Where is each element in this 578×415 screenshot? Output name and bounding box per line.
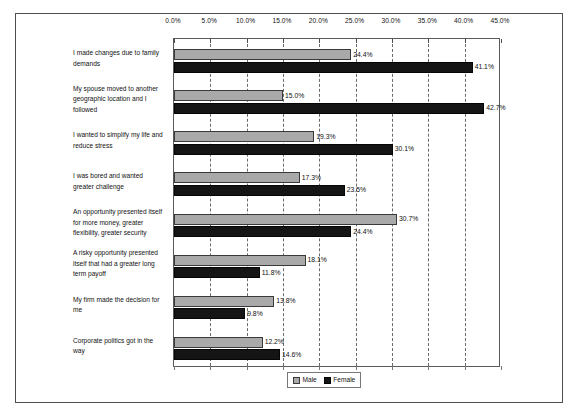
category-label-line: I made changes due to family xyxy=(73,48,173,59)
bar-female xyxy=(174,349,280,360)
legend-label: Male xyxy=(303,376,317,384)
axis-tick-mark xyxy=(283,39,284,43)
bar-value-label: 15.0% xyxy=(285,92,304,100)
category-label: A risky opportunity presenteditself that… xyxy=(73,244,173,285)
bar-value-label: 24.4% xyxy=(353,51,372,59)
axis-tick-mark xyxy=(465,366,466,370)
bar-male xyxy=(174,296,274,307)
bar-value-label: 13.8% xyxy=(276,297,295,305)
bar-value-label: 24.4% xyxy=(353,228,372,236)
category-label: I made changes due to familydemands xyxy=(73,38,173,79)
axis-tick-mark xyxy=(247,39,248,43)
category-label-line: for more money, greater xyxy=(73,218,173,229)
gridline xyxy=(283,39,284,366)
category-label: My spouse moved to anothergeographic loc… xyxy=(73,79,173,120)
category-label-line: reduce stress xyxy=(73,141,173,152)
bar-value-label: 30.1% xyxy=(395,145,414,153)
bar-female xyxy=(174,185,345,196)
category-label-line: My firm made the decision for xyxy=(73,295,173,306)
plot-area: 24.4%41.1%15.0%42.7%19.3%30.1%17.3%23.5%… xyxy=(173,38,500,367)
legend-entry-female[interactable]: Female xyxy=(324,376,356,384)
category-label: I wanted to simplify my life andreduce s… xyxy=(73,120,173,161)
bar-male xyxy=(174,90,283,101)
gridline xyxy=(356,39,357,366)
bar-female xyxy=(174,62,473,73)
category-label-line: demands xyxy=(73,59,173,70)
category-label-line: term payoff xyxy=(73,269,173,280)
category-label-line: followed xyxy=(73,105,173,116)
bar-female xyxy=(174,267,260,278)
gridline xyxy=(428,39,429,366)
bar-female xyxy=(174,308,245,319)
category-label-line: flexibility, greater security xyxy=(73,228,173,239)
category-label: My firm made the decision forme xyxy=(73,285,173,326)
chart-legend: MaleFemale xyxy=(287,372,361,388)
bar-value-label: 9.8% xyxy=(247,310,263,318)
axis-tick-mark xyxy=(428,366,429,370)
legend-swatch-icon xyxy=(324,377,331,384)
axis-tick-mark xyxy=(501,39,502,43)
category-label-line: me xyxy=(73,305,173,316)
gridline xyxy=(465,39,466,366)
bar-female xyxy=(174,226,351,237)
axis-tick-mark xyxy=(174,39,175,43)
category-label-line: My spouse moved to another xyxy=(73,84,173,95)
bar-value-label: 14.6% xyxy=(282,351,301,359)
bar-male xyxy=(174,214,397,225)
axis-tick-mark xyxy=(392,39,393,43)
axis-tick-mark xyxy=(319,39,320,43)
chart-frame: 0.0%5.0%10.0%15.0%20.0%25.0%30.0%35.0%40… xyxy=(15,13,563,403)
bar-female xyxy=(174,103,484,114)
category-label-line: A risky opportunity presented xyxy=(73,248,173,259)
category-label-line: Corporate politics got in the xyxy=(73,336,173,347)
bar-value-label: 11.8% xyxy=(262,269,281,277)
bar-male xyxy=(174,337,263,348)
axis-tick-mark xyxy=(283,366,284,370)
category-label: Corporate politics got in theway xyxy=(73,326,173,367)
axis-tick-mark xyxy=(247,366,248,370)
x-axis-tick-label: 45.0% xyxy=(478,17,522,25)
bar-male xyxy=(174,131,314,142)
axis-tick-mark xyxy=(392,366,393,370)
category-label-line: geographic location and I xyxy=(73,94,173,105)
category-label-line: An opportunity presented itself xyxy=(73,207,173,218)
bar-male xyxy=(174,172,300,183)
category-label: An opportunity presented itselffor more … xyxy=(73,203,173,244)
legend-swatch-icon xyxy=(293,377,300,384)
bar-value-label: 23.5% xyxy=(347,186,366,194)
bar-value-label: 17.3% xyxy=(302,174,321,182)
axis-tick-mark xyxy=(356,366,357,370)
bar-male xyxy=(174,49,351,60)
bar-value-label: 18.1% xyxy=(308,256,327,264)
category-label-line: I wanted to simplify my life and xyxy=(73,130,173,141)
axis-tick-mark xyxy=(174,366,175,370)
axis-tick-mark xyxy=(210,366,211,370)
category-label-line: itself that had a greater long xyxy=(73,259,173,270)
legend-entry-male[interactable]: Male xyxy=(293,376,317,384)
bar-male xyxy=(174,255,306,266)
axis-tick-mark xyxy=(210,39,211,43)
axis-tick-mark xyxy=(356,39,357,43)
bar-value-label: 30.7% xyxy=(399,215,418,223)
category-label-line: greater challenge xyxy=(73,182,173,193)
axis-tick-mark xyxy=(501,366,502,370)
legend-label: Female xyxy=(333,376,355,384)
axis-tick-mark xyxy=(465,39,466,43)
bar-value-label: 41.1% xyxy=(475,63,494,71)
bar-value-label: 19.3% xyxy=(316,133,335,141)
category-label-line: way xyxy=(73,346,173,357)
bar-value-label: 12.2% xyxy=(265,338,284,346)
axis-tick-mark xyxy=(428,39,429,43)
category-label: I was bored and wantedgreater challenge xyxy=(73,161,173,202)
gridline xyxy=(319,39,320,366)
category-label-line: I was bored and wanted xyxy=(73,171,173,182)
bar-female xyxy=(174,144,393,155)
bar-value-label: 42.7% xyxy=(486,104,505,112)
axis-tick-mark xyxy=(319,366,320,370)
gridline xyxy=(392,39,393,366)
